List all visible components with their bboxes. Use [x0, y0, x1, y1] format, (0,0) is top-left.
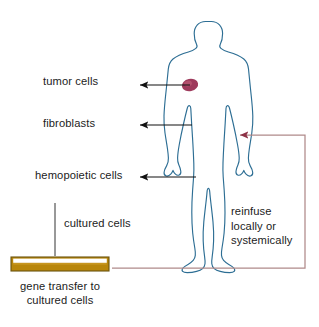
diagram-graphics — [0, 0, 319, 327]
label-hemopoietic-cells: hemopoietic cells — [35, 168, 123, 182]
label-fibroblasts: fibroblasts — [43, 116, 95, 130]
figure-canvas: tumor cells fibroblasts hemopoietic cell… — [0, 0, 319, 327]
reinfuse-path — [112, 135, 305, 268]
label-reinfuse: reinfuse locally or systemically — [231, 204, 303, 248]
culture-dish-icon — [11, 257, 109, 271]
label-tumor-cells: tumor cells — [43, 74, 98, 88]
label-cultured-cells: cultured cells — [64, 216, 131, 230]
caption-gene-transfer: gene transfer to cultured cells — [4, 279, 116, 308]
